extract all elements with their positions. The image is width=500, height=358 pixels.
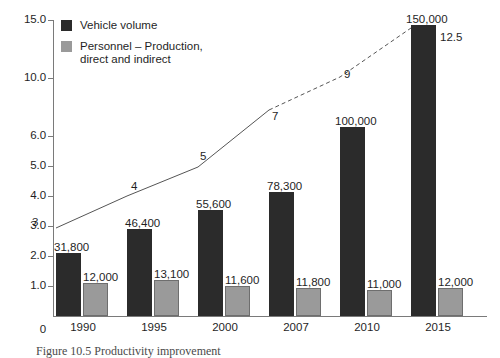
bar-vehicle-1990 (56, 253, 81, 316)
y-tick-label: 1.0 (2, 280, 46, 292)
x-tick-label-2015: 2015 (411, 321, 465, 334)
y-tick-label: 10.0 (2, 72, 46, 84)
line-value-2015: 12.5 (440, 31, 462, 43)
bar-value-vehicle-2007: 78,300 (267, 180, 302, 192)
bar-vehicle-2000 (198, 210, 223, 316)
bar-value-vehicle-2000: 55,600 (196, 198, 231, 210)
figure-caption: Figure 10.5 Productivity improvement (36, 344, 221, 358)
bar-personnel-1990 (83, 283, 108, 316)
bar-value-personnel-2015: 12,000 (438, 276, 473, 288)
bar-vehicle-2010 (340, 127, 365, 316)
line-value-1990: 3 (32, 216, 38, 228)
bar-personnel-2007 (296, 288, 321, 316)
y-tick-label: 0 (2, 324, 46, 336)
bar-vehicle-2007 (269, 192, 294, 316)
y-tick-label: 2.0 (2, 250, 46, 262)
bar-vehicle-2015 (411, 25, 436, 316)
plot-area: 31,800 12,000 46,400 13,100 55,600 11,60… (54, 18, 487, 316)
y-tick-label: 5.0 (2, 160, 46, 172)
y-tick-label: 3.0 (2, 220, 46, 232)
bar-value-vehicle-1990: 31,800 (54, 241, 89, 253)
bar-personnel-2010 (367, 290, 392, 316)
bar-value-vehicle-2010: 100,000 (335, 115, 377, 127)
bar-value-vehicle-1995: 46,400 (125, 217, 160, 229)
x-tick-label-1995: 1995 (127, 321, 181, 334)
line-value-2007: 7 (272, 110, 278, 122)
bar-vehicle-1995 (127, 229, 152, 316)
y-tick-label: 15.0 (2, 14, 46, 26)
bar-value-personnel-2010: 11,000 (367, 278, 401, 290)
line-value-1995: 4 (131, 180, 137, 192)
bar-personnel-2015 (438, 288, 463, 316)
bar-value-personnel-2007: 11,800 (296, 276, 330, 288)
line-value-2000: 5 (200, 150, 206, 162)
x-tick-label-2010: 2010 (340, 321, 394, 334)
bar-value-personnel-1995: 13,100 (154, 268, 189, 280)
bar-personnel-1995 (154, 280, 179, 316)
bar-personnel-2000 (225, 286, 250, 316)
x-tick-label-1990: 1990 (56, 321, 110, 334)
bar-value-vehicle-2015: 150,000 (406, 13, 448, 25)
x-axis-line (53, 316, 487, 317)
x-tick-label-2000: 2000 (198, 321, 252, 334)
x-tick-label-2007: 2007 (269, 321, 323, 334)
bar-value-personnel-2000: 11,600 (225, 274, 259, 286)
y-tick-label: 6.0 (2, 130, 46, 142)
y-tick-label: 4.0 (2, 190, 46, 202)
line-value-2010: 9 (344, 68, 350, 80)
bar-value-personnel-1990: 12,000 (83, 271, 118, 283)
